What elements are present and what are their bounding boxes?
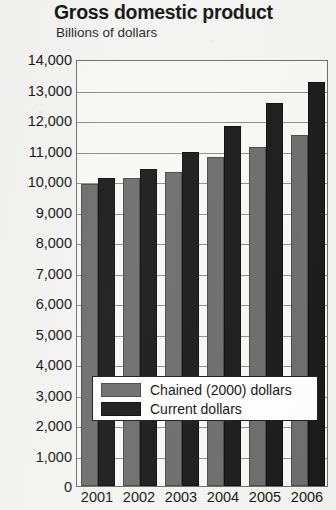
x-axis: 200120022003200420052006 [76, 489, 328, 510]
legend-item: Current dollars [101, 399, 317, 418]
y-tick-label: 8,000 [2, 235, 72, 251]
bar [140, 169, 157, 486]
bars-layer [77, 61, 327, 486]
bar [266, 103, 283, 486]
bar [291, 135, 308, 486]
y-tick-label: 10,000 [2, 174, 72, 190]
bar [165, 172, 182, 486]
legend-label: Chained (2000) dollars [150, 382, 292, 398]
bar [182, 152, 199, 486]
chart-legend: Chained (2000) dollars Current dollars [92, 376, 318, 421]
legend-swatch-current-icon [101, 402, 141, 416]
y-tick-label: 6,000 [2, 296, 72, 312]
y-tick-label: 7,000 [2, 266, 72, 282]
legend-item: Chained (2000) dollars [101, 380, 317, 399]
y-tick-label: 3,000 [2, 388, 72, 404]
y-tick-label: 1,000 [2, 449, 72, 465]
bar [308, 82, 325, 486]
x-tick-label: 2004 [207, 489, 239, 505]
y-tick-label: 14,000 [2, 52, 72, 68]
y-axis: 14,00013,00012,00011,00010,0009,0008,000… [0, 0, 72, 510]
y-tick-label: 5,000 [2, 327, 72, 343]
x-tick-label: 2006 [291, 489, 323, 505]
bar [123, 178, 140, 486]
x-tick-label: 2005 [249, 489, 281, 505]
x-tick-label: 2003 [165, 489, 197, 505]
chart-title: Gross domestic product [54, 1, 273, 24]
bar [98, 178, 115, 486]
legend-swatch-chained-icon [101, 383, 141, 397]
x-tick-label: 2002 [123, 489, 155, 505]
bar [249, 147, 266, 486]
x-tick-label: 2001 [81, 489, 113, 505]
y-tick-label: 2,000 [2, 418, 72, 434]
gdp-bar-chart: Gross domestic product Billions of dolla… [0, 0, 336, 510]
y-tick-label: 13,000 [2, 83, 72, 99]
plot-area [76, 60, 328, 487]
y-tick-label: 12,000 [2, 113, 72, 129]
y-tick-label: 11,000 [2, 144, 72, 160]
y-tick-label: 9,000 [2, 205, 72, 221]
bar [207, 157, 224, 486]
bar [224, 126, 241, 486]
y-tick-label: 0 [2, 479, 72, 495]
y-tick-label: 4,000 [2, 357, 72, 373]
bar [81, 184, 98, 486]
legend-label: Current dollars [150, 401, 242, 417]
